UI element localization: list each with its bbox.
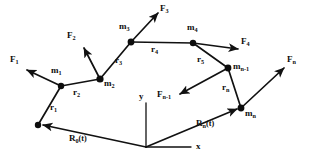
- node-m4: [190, 40, 196, 46]
- mass-label-m3: m3: [119, 22, 130, 31]
- link-r4: [131, 42, 193, 43]
- mechanics-chain-diagram: m1 m2 m3 m4 mn-1 mn r1 r2 r3 r4 r5 rn F1…: [0, 0, 311, 160]
- node-m3: [128, 39, 135, 46]
- node-m2: [96, 75, 103, 82]
- mass-label-mn-1: mn-1: [233, 62, 249, 71]
- force-arrow-Fn: [241, 68, 284, 108]
- coordinate-axes: [146, 103, 191, 147]
- force-label-Fn-1: Fn-1: [157, 90, 171, 99]
- mass-label-m1: m1: [51, 66, 62, 75]
- force-arrow-F3: [131, 13, 158, 42]
- mass-nodes: [35, 39, 245, 129]
- reference-arrow-R0: [43, 125, 146, 147]
- mass-label-mn: mn: [245, 109, 256, 118]
- vector-label-rn: rn: [222, 83, 229, 92]
- force-label-F4: F4: [241, 37, 250, 46]
- force-label-F1: F1: [10, 55, 19, 64]
- node-m1: [58, 83, 64, 89]
- link-lines: [38, 42, 241, 125]
- diagram-canvas: [0, 0, 311, 160]
- force-arrow-Fn-1: [180, 68, 228, 94]
- node-mn: [238, 105, 245, 112]
- node-mn-1: [225, 65, 232, 72]
- force-label-F2: F2: [67, 31, 76, 40]
- force-label-F3: F3: [160, 4, 169, 13]
- node-base: [35, 122, 41, 128]
- vector-label-r1: r1: [50, 103, 57, 112]
- reference-label-Rn: Rn(t): [196, 119, 214, 128]
- link-rn: [228, 68, 241, 108]
- force-label-Fn: Fn: [287, 55, 296, 64]
- vector-label-r4: r4: [151, 45, 158, 54]
- reference-label-R0: R0(t): [69, 134, 87, 143]
- mass-label-m2: m2: [104, 79, 115, 88]
- reference-arrow-Rn: [146, 109, 237, 147]
- force-arrow-F2: [84, 48, 100, 79]
- force-vectors: [27, 13, 284, 108]
- vector-label-r5: r5: [197, 55, 204, 64]
- y-axis-label: y: [139, 92, 144, 101]
- mass-label-m4: m4: [187, 23, 198, 32]
- vector-label-r3: r3: [115, 56, 122, 65]
- link-r2: [61, 79, 100, 86]
- x-axis-label: x: [196, 142, 201, 151]
- vector-label-r2: r2: [73, 88, 80, 97]
